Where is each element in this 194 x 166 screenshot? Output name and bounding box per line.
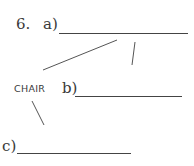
connector-line-b [132, 42, 135, 65]
connector-lines [0, 0, 194, 166]
connector-line-a [43, 40, 117, 70]
connector-line-c [32, 101, 44, 125]
